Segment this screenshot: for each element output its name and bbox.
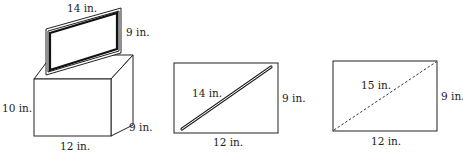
rod-length-label: 14 in. [192, 87, 222, 99]
box-width-label: 12 in. [60, 140, 90, 152]
rect-height-label: 9 in. [441, 90, 463, 102]
box-height-label: 10 in. [2, 102, 32, 114]
rect-width-label: 12 in. [213, 136, 243, 148]
figure-tv-on-box: 14 in. 9 in. 10 in. 12 in. 9 in. [2, 2, 152, 152]
screen-width-label: 14 in. [67, 2, 97, 14]
figure-rectangle-dashed-diagonal: 15 in. 9 in. 12 in. [333, 61, 463, 147]
screen-height-label: 9 in. [126, 26, 149, 38]
diagonal-length-label: 15 in. [361, 79, 391, 91]
box-front-face [34, 79, 111, 136]
rect-height-label: 9 in. [282, 92, 305, 104]
diagram-canvas: 14 in. 9 in. 10 in. 12 in. 9 in. 14 in. … [0, 0, 463, 156]
figure-rectangle-with-rod: 14 in. 9 in. 12 in. [174, 63, 305, 148]
box-depth-label: 9 in. [129, 121, 152, 133]
rect-width-label: 12 in. [371, 135, 401, 147]
